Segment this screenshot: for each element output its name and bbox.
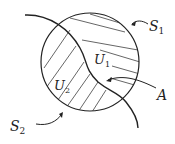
s1-arrowhead	[131, 21, 136, 26]
label-s1: S1	[149, 18, 164, 36]
diagram-canvas: S1 U1 U2 A S2	[0, 0, 175, 144]
s2-arrow	[36, 114, 62, 125]
a-arrowhead	[106, 77, 112, 82]
label-a: A	[155, 87, 167, 103]
label-s2: S2	[10, 118, 25, 136]
label-u1: U1	[94, 52, 110, 69]
label-u2: U2	[54, 78, 70, 95]
s1-circle	[41, 13, 139, 111]
